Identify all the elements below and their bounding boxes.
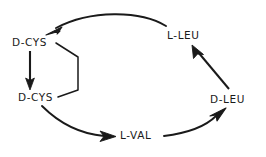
node-label-d-cys-bottom: D-CYS: [18, 91, 53, 103]
node-label-d-leu: D-LEU: [210, 93, 245, 105]
edge-l-leu-to-d-cys-top: [46, 14, 166, 35]
edge-d-cys-bot-to-l-val: [42, 106, 116, 142]
disulfide-bridge-bracket: [56, 43, 78, 97]
node-label-d-cys-top: D-CYS: [12, 36, 47, 48]
edge-d-cys-top-to-d-cys-bot: [26, 51, 35, 90]
node-label-l-val: L-VAL: [120, 129, 151, 141]
node-label-l-leu: L-LEU: [167, 29, 200, 41]
edge-l-val-to-d-leu-line: [164, 116, 216, 136]
cyclic-peptide-diagram: D-CYS D-CYS L-LEU D-LEU L-VAL: [0, 0, 266, 157]
edge-d-leu-to-l-leu: [192, 45, 229, 89]
edge-l-val-to-d-leu: [164, 108, 226, 136]
edge-d-cys-bot-to-l-val-line: [42, 106, 104, 136]
disulfide-bridge: [56, 43, 78, 97]
edge-l-leu-to-d-cys-top-arrowhead: [46, 27, 62, 35]
edge-d-leu-to-l-leu-line: [198, 52, 229, 89]
edge-l-leu-to-d-cys-top-line: [56, 14, 166, 28]
